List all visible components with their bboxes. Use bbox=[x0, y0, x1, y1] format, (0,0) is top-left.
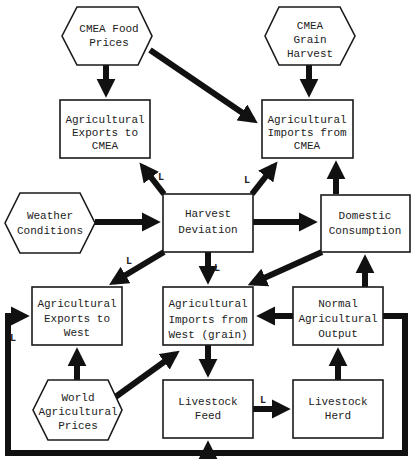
node-ag-exports-west: Agricultural Exports to West bbox=[32, 287, 122, 345]
node-label: Normal bbox=[318, 298, 358, 310]
node-label: Agricultural bbox=[168, 298, 247, 310]
node-cmea-food-prices: CMEA Food Prices bbox=[62, 7, 152, 65]
node-label: CMEA Food bbox=[79, 23, 138, 35]
node-label: Exports to bbox=[44, 313, 110, 325]
node-label: West (grain) bbox=[168, 329, 247, 341]
node-label: Agricultural bbox=[65, 114, 144, 126]
node-ag-exports-cmea: Agricultural Exports to CMEA bbox=[60, 100, 150, 158]
node-label: World bbox=[61, 392, 94, 404]
node-label: West bbox=[64, 327, 90, 339]
node-label: Grain bbox=[293, 34, 326, 46]
node-label: Feed bbox=[195, 410, 221, 422]
node-label: Agricultural bbox=[37, 298, 116, 310]
node-label: Agricultural bbox=[38, 406, 117, 418]
node-label: Exports to bbox=[72, 127, 138, 139]
node-world-ag-prices: World Agricultural Prices bbox=[33, 380, 122, 440]
node-livestock-feed: Livestock Feed bbox=[163, 380, 253, 438]
node-label: Imports from bbox=[267, 127, 347, 139]
node-label: Consumption bbox=[329, 225, 402, 237]
node-domestic-consumption: Domestic Consumption bbox=[321, 195, 410, 252]
node-label: Conditions bbox=[17, 225, 83, 237]
node-label: Prices bbox=[89, 37, 129, 49]
edge-food-prices-to-imports-cmea bbox=[150, 50, 253, 120]
lag-label: L bbox=[244, 175, 250, 186]
lag-label: L bbox=[260, 395, 266, 406]
node-weather-conditions: Weather Conditions bbox=[5, 193, 95, 253]
node-ag-imports-cmea: Agricultural Imports from CMEA bbox=[262, 100, 353, 158]
node-label: Agricultural bbox=[267, 114, 346, 126]
causal-diagram: L L L L L L CMEA Food Prices CMEA Grain … bbox=[0, 0, 414, 463]
node-label: Livestock bbox=[308, 396, 368, 408]
node-label: Herd bbox=[325, 410, 351, 422]
node-harvest-deviation: Harvest Deviation bbox=[163, 194, 253, 252]
node-label: Livestock bbox=[178, 396, 238, 408]
node-cmea-grain-harvest: CMEA Grain Harvest bbox=[265, 7, 355, 65]
node-label: CMEA bbox=[297, 20, 324, 32]
node-label: Domestic bbox=[339, 210, 392, 222]
edge-harvest-to-exports-west bbox=[114, 252, 164, 282]
node-label: Agricultural bbox=[298, 313, 377, 325]
node-label: Harvest bbox=[287, 48, 333, 60]
node-label: Output bbox=[318, 328, 358, 340]
lag-label: L bbox=[10, 333, 16, 344]
edge-consumption-to-imports-west bbox=[253, 252, 322, 283]
node-label: Weather bbox=[27, 210, 73, 222]
edge-harvest-to-imports-cmea bbox=[252, 166, 274, 194]
node-label: Deviation bbox=[178, 224, 237, 236]
lag-label: L bbox=[214, 263, 220, 274]
node-label: CMEA bbox=[294, 140, 321, 152]
node-ag-imports-west: Agricultural Imports from West (grain) bbox=[163, 287, 253, 345]
node-livestock-herd: Livestock Herd bbox=[293, 380, 383, 438]
node-label: Harvest bbox=[185, 208, 231, 220]
lag-label: L bbox=[126, 256, 132, 267]
node-label: Prices bbox=[58, 420, 98, 432]
node-label: Imports from bbox=[168, 314, 248, 326]
node-label: CMEA bbox=[92, 140, 119, 152]
node-normal-ag-output: Normal Agricultural Output bbox=[293, 287, 383, 345]
lag-label: L bbox=[158, 172, 164, 183]
